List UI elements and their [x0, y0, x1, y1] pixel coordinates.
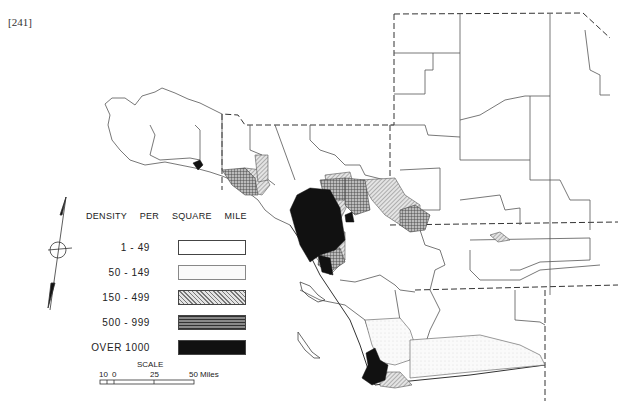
scale-title: SCALE	[137, 360, 163, 369]
legend-title: DENSITY PER SQUARE MILE	[86, 211, 247, 221]
legend-item-50-149: 50 - 149	[80, 265, 250, 281]
scale-bar	[100, 380, 194, 384]
scale-tick: 0	[112, 370, 116, 379]
legend-item-150-499: 150 - 499	[80, 290, 250, 306]
legend-label: 50 - 149	[109, 267, 151, 278]
legend-swatch-empty	[178, 240, 246, 255]
legend-item-over-1000: OVER 1000	[80, 340, 250, 356]
scale-tick: 50 Miles	[189, 370, 219, 379]
legend-swatch-solid	[178, 340, 246, 355]
legend-swatch-hatch	[178, 290, 246, 305]
legend-label: 1 - 49	[121, 242, 150, 253]
density-fill-50-149	[310, 245, 545, 378]
legend-item-500-999: 500 - 999	[80, 315, 250, 331]
legend-label: OVER 1000	[91, 342, 150, 353]
scale-tick: 10	[99, 370, 108, 379]
legend-swatch-crosshatch	[178, 315, 246, 330]
legend-label: 150 - 499	[102, 292, 150, 303]
north-arrow-compass-icon	[48, 197, 72, 310]
legend-label: 500 - 999	[102, 317, 150, 328]
legend-item-1-49: 1 - 49	[80, 240, 250, 256]
channel-islands	[298, 282, 325, 358]
scale-tick: 25	[150, 370, 159, 379]
legend-swatch-stipple	[178, 265, 246, 280]
